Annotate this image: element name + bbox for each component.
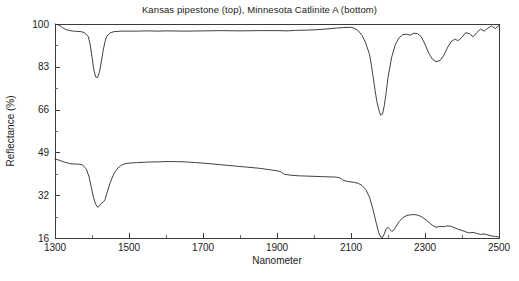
- plot-frame: [56, 25, 500, 239]
- y-axis-title: Reflectance (%): [5, 95, 16, 166]
- x-axis-title: Nanometer: [252, 255, 302, 266]
- y-tick-label: 100: [32, 19, 49, 30]
- labels-layer: 1300150017001900210023002500163249668310…: [5, 19, 511, 267]
- chart-figure: Kansas pipestone (top), Minnesota Catlin…: [0, 0, 519, 281]
- x-tick-label: 2100: [340, 242, 363, 253]
- y-tick-label: 49: [38, 147, 50, 158]
- series-layer: [55, 24, 499, 237]
- x-tick-label: 1500: [118, 242, 141, 253]
- spectral-plot: 1300150017001900210023002500163249668310…: [0, 0, 519, 281]
- spectrum-line-1: [55, 159, 499, 237]
- y-tick-label: 83: [38, 61, 50, 72]
- y-tick-label: 16: [38, 233, 50, 244]
- spectrum-line-0: [55, 24, 499, 115]
- x-tick-label: 1700: [192, 242, 215, 253]
- y-tick-label: 32: [38, 190, 50, 201]
- axes-layer: [55, 25, 500, 239]
- x-tick-label: 1900: [266, 242, 289, 253]
- x-tick-label: 1300: [44, 242, 67, 253]
- x-tick-label: 2300: [414, 242, 437, 253]
- y-tick-label: 66: [38, 104, 50, 115]
- x-tick-label: 2500: [488, 242, 511, 253]
